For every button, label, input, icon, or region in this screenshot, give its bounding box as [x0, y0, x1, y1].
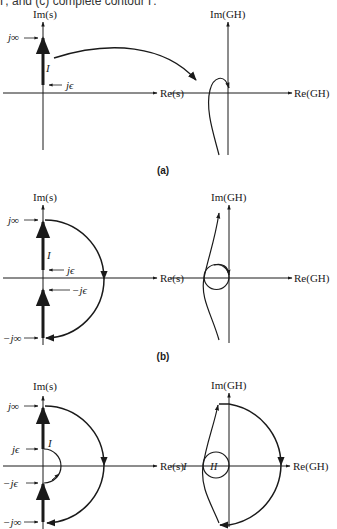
axis-label-re-gh: Re(GH) — [293, 460, 329, 473]
label-j-eps: jϵ — [65, 264, 75, 276]
gh-small-circle — [204, 265, 229, 290]
axis-label-re-gh: Re(GH) — [294, 272, 330, 285]
label-j-eps: jϵ — [64, 79, 74, 91]
axis-label-im-s: Im(s) — [33, 8, 57, 21]
region-label-I: I — [46, 249, 52, 261]
label-j-inf: j∞ — [6, 31, 19, 43]
label-neg-j-eps: −jϵ — [3, 477, 18, 489]
label-neg-j-inf: −j∞ — [3, 516, 21, 528]
mapping-arrow — [54, 48, 196, 80]
axis-label-im-gh: Im(GH) — [210, 8, 246, 21]
axis-label-im-s: Im(s) — [33, 380, 57, 393]
nyquist-contour-diagram: Im(s) Re(s) j∞ I jϵ Im(GH) Re(GH) (a) Im… — [0, 0, 337, 529]
gh-big-arc-upper — [219, 404, 281, 465]
infinite-semicircle-upper — [45, 406, 104, 465]
small-semicircle-upper — [44, 449, 61, 466]
axis-label-im-s: Im(s) — [33, 191, 57, 204]
panel-label-a: (a) — [157, 165, 169, 176]
gh-image-curve — [203, 213, 219, 340]
label-j-eps: jϵ — [10, 443, 20, 455]
region-label-I: I — [45, 62, 51, 74]
panel-a: Im(s) Re(s) j∞ I jϵ Im(GH) Re(GH) (a) — [3, 8, 330, 176]
s-plane-a: Im(s) Re(s) j∞ I jϵ — [3, 8, 184, 150]
axis-label-im-gh: Im(GH) — [211, 379, 247, 392]
region-label-I: I — [47, 437, 53, 449]
axis-label-im-gh: Im(GH) — [211, 191, 247, 204]
label-neg-j-eps: −jϵ — [72, 284, 87, 296]
gh-plane-a: Im(GH) Re(GH) — [170, 8, 330, 155]
label-j-inf: j∞ — [6, 400, 19, 412]
s-plane-c: Im(s) Re(s) j∞ jϵ −jϵ −j∞ I — [3, 380, 184, 529]
panel-label-b: (b) — [157, 351, 170, 362]
label-j-inf: j∞ — [6, 214, 19, 226]
s-plane-b: Im(s) Re(s) j∞ −j∞ I jϵ −jϵ — [3, 191, 184, 345]
gh-plane-c: Im(GH) Re(GH) I II — [170, 379, 329, 527]
gh-plane-b: Im(GH) Re(GH) — [170, 191, 330, 343]
region-label-II: II — [209, 460, 219, 472]
label-neg-j-inf: −j∞ — [3, 332, 21, 344]
axis-label-re-gh: Re(GH) — [294, 87, 330, 100]
panel-b: Im(s) Re(s) j∞ −j∞ I jϵ −jϵ Im(GH) Re(GH… — [3, 191, 330, 362]
gh-image-curve — [209, 78, 229, 155]
infinite-semicircle-lower — [47, 465, 104, 523]
panel-c: Im(s) Re(s) j∞ jϵ −jϵ −j∞ I Im(GH) — [3, 379, 329, 529]
